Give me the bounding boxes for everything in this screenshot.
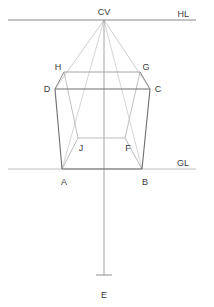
- ray-cv-to-b: [104, 20, 142, 169]
- diagram-canvas: HL GL CV H G D C J F A B E: [0, 0, 214, 307]
- label-h: H: [55, 62, 62, 72]
- label-hl: HL: [177, 9, 189, 19]
- label-e: E: [101, 290, 107, 300]
- edge-D-A: [55, 89, 62, 169]
- perspective-diagram: HL GL CV H G D C J F A B E: [0, 0, 214, 307]
- ray-cv-to-c: [104, 20, 150, 89]
- edge-C-B: [142, 89, 150, 169]
- connector-edge-group: [55, 72, 150, 169]
- edge-D-H: [55, 72, 64, 89]
- label-j: J: [79, 143, 84, 153]
- label-c: C: [155, 84, 162, 94]
- convergence-ray-group: [55, 20, 150, 169]
- label-d: D: [44, 84, 51, 94]
- label-gl: GL: [177, 158, 189, 168]
- ray-cv-to-d: [55, 20, 104, 89]
- edge-C-G: [140, 72, 150, 89]
- label-g: G: [142, 62, 149, 72]
- label-a: A: [61, 177, 67, 187]
- back-face-group: [64, 72, 140, 138]
- edge-G-F: [125, 72, 140, 138]
- edge-H-J: [64, 72, 78, 138]
- edge-A-J: [62, 138, 78, 169]
- label-cv: CV: [98, 7, 111, 17]
- label-f: F: [125, 143, 131, 153]
- label-b: B: [142, 177, 148, 187]
